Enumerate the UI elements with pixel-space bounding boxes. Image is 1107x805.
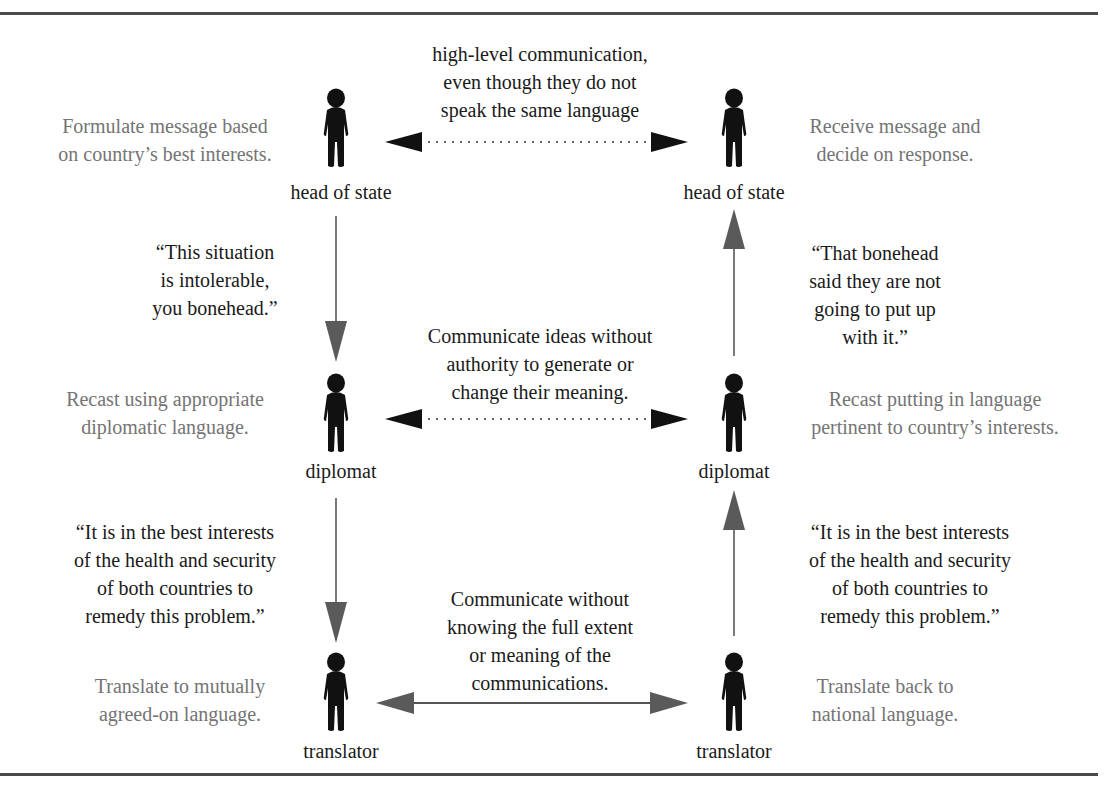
diplomat-link-text: Communicate ideas without authority to g… bbox=[390, 322, 690, 406]
right-translator-label: translator bbox=[654, 739, 814, 763]
right-quote-translator-to-diplomat: “It is in the best interests of the heal… bbox=[770, 518, 1050, 630]
left-translator-label: translator bbox=[261, 739, 421, 763]
left-down-arrow-2 bbox=[325, 498, 347, 643]
right-translator-description: Translate back to national language. bbox=[770, 672, 1000, 728]
right-up-arrow-1 bbox=[723, 209, 745, 356]
right-diplomat-description: Recast putting in language pertinent to … bbox=[765, 385, 1105, 441]
person-icon bbox=[714, 88, 754, 168]
right-diplomat-label: diplomat bbox=[654, 459, 814, 483]
left-translator-description: Translate to mutually agreed-on language… bbox=[60, 672, 300, 728]
right-up-arrow-2 bbox=[723, 490, 745, 636]
head-of-state-link-text: high-level communication, even though th… bbox=[390, 40, 690, 124]
right-head-of-state-description: Receive message and decide on response. bbox=[770, 112, 1020, 168]
left-head-of-state-description: Formulate message based on country’s bes… bbox=[30, 112, 300, 168]
person-icon bbox=[316, 652, 356, 732]
translator-link-text: Communicate without knowing the full ext… bbox=[390, 585, 690, 697]
right-head-of-state-label: head of state bbox=[654, 180, 814, 204]
head-of-state-link-arrow bbox=[385, 132, 688, 152]
person-icon bbox=[714, 373, 754, 453]
right-quote-diplomat-to-head: “That bonehead said they are not going t… bbox=[770, 239, 980, 351]
left-quote-diplomat-to-translator: “It is in the best interests of the heal… bbox=[40, 518, 310, 630]
left-quote-head-to-diplomat: “This situation is intolerable, you bone… bbox=[130, 238, 300, 322]
diplomat-link-arrow bbox=[385, 409, 688, 429]
left-diplomat-label: diplomat bbox=[261, 459, 421, 483]
person-icon bbox=[316, 88, 356, 168]
left-down-arrow-1 bbox=[325, 216, 347, 362]
person-icon bbox=[714, 652, 754, 732]
left-diplomat-description: Recast using appropriate diplomatic lang… bbox=[30, 385, 300, 441]
person-icon bbox=[316, 373, 356, 453]
left-head-of-state-label: head of state bbox=[261, 180, 421, 204]
